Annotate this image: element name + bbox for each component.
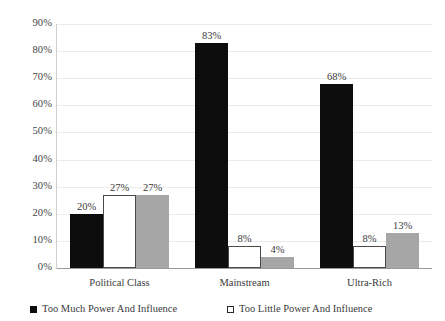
y-axis-tick-label: 50% xyxy=(6,126,52,136)
legend-label: Too Little Power And Influence xyxy=(239,303,372,315)
bar-group: 83%8%4% xyxy=(195,24,294,268)
bar: 27% xyxy=(136,24,169,268)
bar-value-label: 27% xyxy=(143,182,162,193)
bar-value-label: 27% xyxy=(110,182,129,193)
bar-value-label: 8% xyxy=(363,233,377,244)
legend-item[interactable]: Too Much Power And Influence xyxy=(30,303,177,315)
y-axis-tick-label: 20% xyxy=(6,208,52,218)
bar: 8% xyxy=(228,24,261,268)
bar-fill xyxy=(103,195,136,268)
x-axis-line xyxy=(57,268,432,269)
bar: 20% xyxy=(70,24,103,268)
bar-fill xyxy=(195,43,228,268)
legend-item[interactable]: Too Little Power And Influence xyxy=(227,303,372,315)
bar-group: 68%8%13% xyxy=(320,24,419,268)
bar-fill xyxy=(228,246,261,268)
x-axis-category-label: Ultra-Rich xyxy=(307,277,432,288)
y-axis-tick-label: 70% xyxy=(6,72,52,82)
y-axis-tick-label: 90% xyxy=(6,18,52,28)
bar-fill xyxy=(70,214,103,268)
bar-value-label: 8% xyxy=(238,233,252,244)
bar: 27% xyxy=(103,24,136,268)
bar: 83% xyxy=(195,24,228,268)
y-axis-tick-label: 0% xyxy=(6,262,52,272)
bar-group: 20%27%27% xyxy=(70,24,169,268)
bar-fill xyxy=(320,84,353,268)
bar-fill xyxy=(353,246,386,268)
bar-value-label: 13% xyxy=(393,220,412,231)
y-axis: 0%10%20%30%40%50%60%70%80%90% xyxy=(0,0,52,321)
bar: 68% xyxy=(320,24,353,268)
bar: 4% xyxy=(261,24,294,268)
bar: 8% xyxy=(353,24,386,268)
bar-value-label: 83% xyxy=(202,30,221,41)
x-axis-category-label: Mainstream xyxy=(182,277,307,288)
bar-value-label: 20% xyxy=(77,201,96,212)
bar-fill xyxy=(136,195,169,268)
bar-value-label: 68% xyxy=(327,71,346,82)
hollow-square-icon xyxy=(227,306,234,313)
bar-fill xyxy=(261,257,294,268)
bar-value-label: 4% xyxy=(271,244,285,255)
y-axis-tick-label: 80% xyxy=(6,45,52,55)
bar-fill xyxy=(386,233,419,268)
y-axis-tick-label: 40% xyxy=(6,154,52,164)
bar-chart: 0%10%20%30%40%50%60%70%80%90% Too Much P… xyxy=(0,0,445,321)
y-axis-tick-label: 60% xyxy=(6,99,52,109)
y-axis-tick-label: 30% xyxy=(6,181,52,191)
y-axis-tick-label: 10% xyxy=(6,235,52,245)
filled-square-icon xyxy=(30,306,37,313)
chart-legend: Too Much Power And InfluenceToo Little P… xyxy=(0,303,445,319)
bar: 13% xyxy=(386,24,419,268)
x-axis-category-label: Political Class xyxy=(57,277,182,288)
legend-label: Too Much Power And Influence xyxy=(42,303,177,315)
